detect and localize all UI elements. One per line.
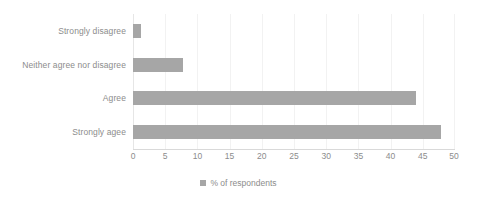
x-tick-label: 35 <box>354 151 363 161</box>
plot-area <box>133 14 455 149</box>
x-tick-label: 20 <box>257 151 266 161</box>
bar-row <box>133 48 455 82</box>
legend-swatch-icon <box>200 180 206 186</box>
bar-row <box>133 82 455 116</box>
bars-layer <box>133 14 455 149</box>
x-tick-label: 50 <box>449 151 458 161</box>
legend-label: % of respondents <box>210 178 276 188</box>
category-axis: Strongly disagree Neither agree nor disa… <box>0 14 126 149</box>
bar-row <box>133 115 455 149</box>
bar-agree <box>133 91 416 105</box>
x-tick-label: 25 <box>289 151 298 161</box>
category-label-strongly-disagree: Strongly disagree <box>0 14 126 48</box>
category-label-neither-agree-nor-disagree: Neither agree nor disagree <box>0 48 126 82</box>
category-label-strongly-agee: Strongly agee <box>0 115 126 149</box>
x-axis-line <box>133 149 455 150</box>
x-axis-tick-labels: 0 5 10 15 20 25 30 35 40 45 50 <box>133 151 455 165</box>
bar-strongly-agee <box>133 125 441 139</box>
bar-row <box>133 14 455 48</box>
chart-legend: % of respondents <box>0 178 477 188</box>
x-tick-label: 45 <box>418 151 427 161</box>
x-tick-label: 10 <box>193 151 202 161</box>
category-label-agree: Agree <box>0 82 126 116</box>
x-tick-label: 30 <box>321 151 330 161</box>
bar-neither-agree-nor-disagree <box>133 58 183 72</box>
x-tick-label: 40 <box>386 151 395 161</box>
bar-chart: Strongly disagree Neither agree nor disa… <box>0 0 477 201</box>
bar-strongly-disagree <box>133 24 141 38</box>
x-tick-label: 0 <box>131 151 136 161</box>
x-tick-label: 15 <box>225 151 234 161</box>
x-tick-label: 5 <box>163 151 168 161</box>
